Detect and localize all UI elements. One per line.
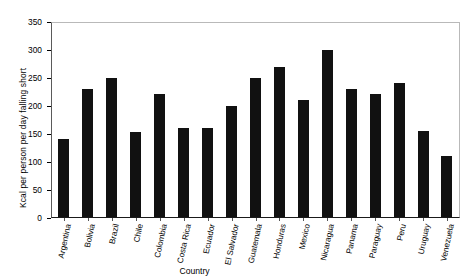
- bar-chart: Kcal per person per day falling short 05…: [0, 0, 473, 280]
- x-axis-tick-marks: [52, 218, 459, 222]
- x-label-slot: Uruguay: [411, 223, 435, 269]
- bar-slot: [172, 22, 196, 217]
- y-tick-label: 0: [22, 214, 46, 222]
- x-label-slot: Paraguay: [363, 223, 387, 269]
- bar-slot: [387, 22, 411, 217]
- y-tick-label: 300: [22, 46, 46, 54]
- x-tick-label: Panama: [345, 223, 360, 255]
- x-tick-label: Brazil: [108, 223, 121, 245]
- bar-slot: [100, 22, 124, 217]
- y-tick-mark: [47, 218, 51, 219]
- x-tick-mark: [279, 218, 280, 221]
- bar: [202, 128, 213, 217]
- x-tick-mark: [184, 218, 185, 221]
- x-tick-mark: [208, 218, 209, 221]
- bar-slot: [76, 22, 100, 217]
- x-tick-label: Ecuador: [201, 223, 216, 255]
- x-label-slot: El Salvador: [220, 223, 244, 269]
- x-axis-title: Country: [0, 266, 431, 276]
- x-tick-mark: [256, 218, 257, 221]
- x-tick-label: Paraguay: [368, 223, 384, 259]
- x-label-slot: Peru: [387, 223, 411, 269]
- x-tick-mark: [136, 218, 137, 221]
- x-label-slot: Panama: [339, 223, 363, 269]
- x-tick-mark: [423, 218, 424, 221]
- x-tick-mark: [351, 218, 352, 221]
- x-tick-label: Guatemala: [247, 223, 264, 264]
- x-label-slot: Venezuela: [435, 223, 459, 269]
- x-tick-label: Uruguay: [417, 223, 432, 255]
- bar-slot: [291, 22, 315, 217]
- bar: [82, 89, 93, 217]
- bar-slot: [363, 22, 387, 217]
- x-tick-label: Costa Rica: [175, 223, 192, 264]
- x-label-slot: Colombia: [148, 223, 172, 269]
- bar-slot: [339, 22, 363, 217]
- x-label-slot: Chile: [124, 223, 148, 269]
- bar: [226, 106, 237, 217]
- x-tick-mark: [112, 218, 113, 221]
- bar: [346, 89, 357, 217]
- x-tick-mark: [232, 218, 233, 221]
- x-label-slot: Guatemala: [244, 223, 268, 269]
- x-tick-label: Bolivia: [83, 223, 97, 248]
- y-axis-tick-labels: 050100150200250300350: [22, 22, 46, 218]
- bar-slot: [267, 22, 291, 217]
- x-tick-mark: [88, 218, 89, 221]
- y-tick-label: 200: [22, 102, 46, 110]
- x-label-slot: Mexico: [291, 223, 315, 269]
- x-label-slot: Nicaragua: [315, 223, 339, 269]
- bar-slot: [244, 22, 268, 217]
- bar-slot: [411, 22, 435, 217]
- x-label-slot: Argentina: [52, 223, 76, 269]
- bar: [394, 83, 405, 217]
- x-tick-label: Argentina: [57, 223, 73, 259]
- x-axis-tick-labels: ArgentinaBoliviaBrazilChileColombiaCosta…: [52, 223, 459, 269]
- x-tick-mark: [64, 218, 65, 221]
- x-tick-label: Chile: [132, 223, 145, 243]
- x-tick-mark: [447, 218, 448, 221]
- bar: [130, 132, 141, 217]
- bar: [322, 50, 333, 217]
- bar: [441, 156, 452, 217]
- bar-slot: [52, 22, 76, 217]
- x-label-slot: Costa Rica: [172, 223, 196, 269]
- x-tick-label: Peru: [395, 223, 407, 242]
- x-tick-label: Mexico: [298, 223, 312, 250]
- y-tick-label: 350: [22, 18, 46, 26]
- bar: [250, 78, 261, 217]
- x-tick-label: El Salvador: [223, 223, 241, 266]
- y-tick-label: 100: [22, 158, 46, 166]
- x-tick-mark: [399, 218, 400, 221]
- x-label-slot: Brazil: [100, 223, 124, 269]
- bar: [154, 94, 165, 217]
- x-tick-mark: [160, 218, 161, 221]
- bars-container: [52, 22, 459, 217]
- bar: [274, 67, 285, 217]
- bar-slot: [124, 22, 148, 217]
- x-label-slot: Honduras: [267, 223, 291, 269]
- bar-slot: [196, 22, 220, 217]
- x-tick-mark: [303, 218, 304, 221]
- bar: [418, 131, 429, 217]
- bar: [58, 139, 69, 217]
- y-tick-label: 250: [22, 74, 46, 82]
- bar-slot: [435, 22, 459, 217]
- x-tick-mark: [327, 218, 328, 221]
- bar: [298, 100, 309, 217]
- bar: [370, 94, 381, 217]
- bar: [106, 78, 117, 217]
- y-tick-label: 50: [22, 186, 46, 194]
- x-tick-label: Venezuela: [439, 223, 456, 262]
- x-tick-label: Nicaragua: [320, 223, 337, 261]
- y-tick-label: 150: [22, 130, 46, 138]
- bar: [178, 128, 189, 217]
- x-label-slot: Bolivia: [76, 223, 100, 269]
- bar-slot: [148, 22, 172, 217]
- bar-slot: [315, 22, 339, 217]
- x-tick-mark: [375, 218, 376, 221]
- x-tick-label: Colombia: [153, 223, 169, 259]
- bar-slot: [220, 22, 244, 217]
- x-label-slot: Ecuador: [196, 223, 220, 269]
- x-tick-label: Honduras: [272, 223, 288, 260]
